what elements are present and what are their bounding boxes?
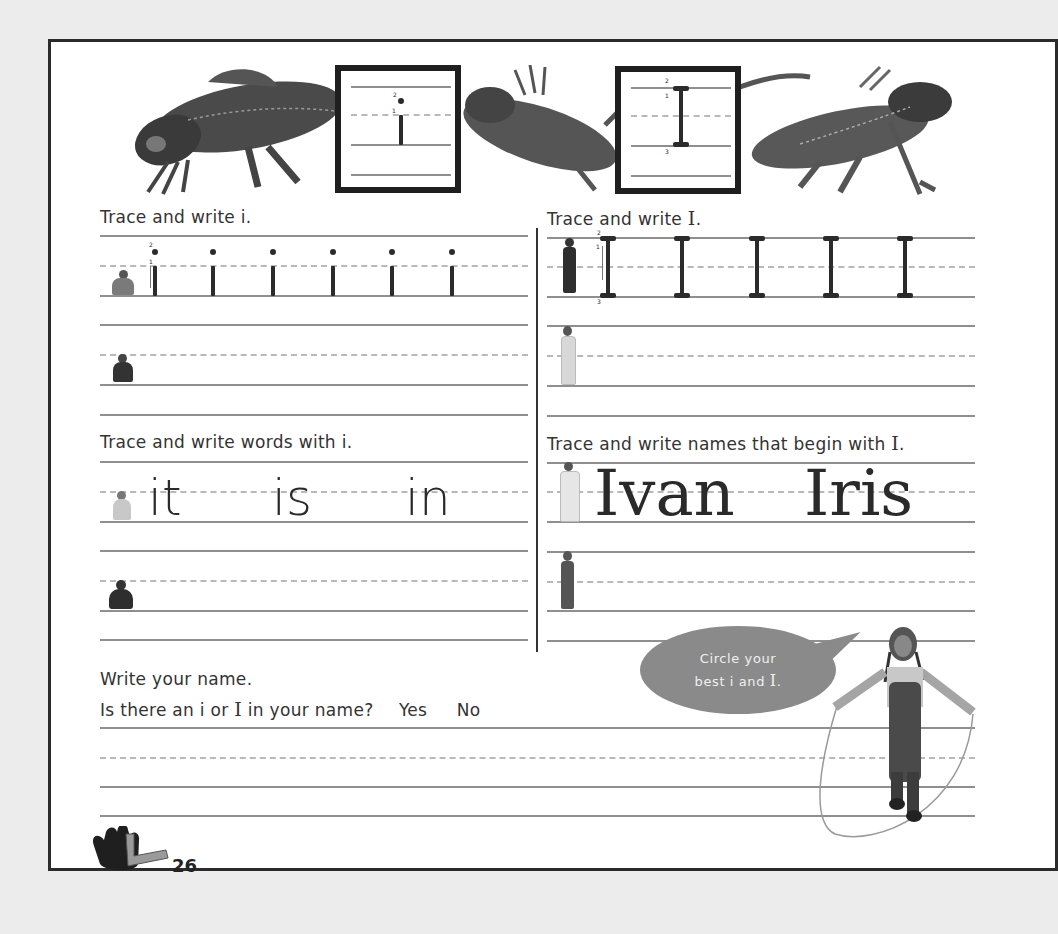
stroke-number: 2 — [393, 91, 397, 98]
question-letter: I — [234, 698, 242, 720]
instruction-trace-i: Trace and write i. — [100, 207, 252, 227]
lizard-middle-image — [455, 65, 630, 195]
guide-line-bottom — [351, 174, 451, 176]
child-figure-sitting — [112, 354, 134, 384]
model-letter-i[interactable] — [390, 266, 394, 296]
stroke-arrow-icon — [602, 246, 603, 280]
trace-name-text: Ivan — [594, 456, 735, 530]
trace-name-text: Iris — [804, 456, 913, 530]
instruction-words-i: Trace and write words with i. — [100, 432, 352, 452]
guide-line-mid — [100, 354, 528, 356]
option-no[interactable]: No — [457, 700, 481, 720]
guide-line-top — [100, 550, 528, 552]
lizard-left-image — [128, 62, 358, 197]
guide-line-top — [547, 325, 975, 327]
guide-line-bottom — [100, 639, 528, 641]
guide-line-mid — [547, 266, 975, 268]
stroke-number: 1 — [392, 107, 396, 114]
model-letter-i[interactable] — [153, 266, 157, 296]
child-figure-standing — [562, 238, 578, 294]
girl-jump-rope-image — [815, 622, 980, 844]
model-letter-i[interactable] — [330, 249, 336, 255]
column-divider — [536, 228, 538, 652]
i-dot — [398, 98, 404, 104]
model-letter-i[interactable] — [152, 249, 158, 255]
trace-word[interactable]: is — [272, 473, 312, 523]
guide-line-top — [100, 235, 528, 237]
trace-word[interactable]: it — [148, 473, 182, 523]
stroke-number: 1 — [665, 92, 669, 99]
stroke-number: 2 — [149, 241, 153, 248]
model-letter-i[interactable] — [331, 266, 335, 296]
instruction-names-I: Trace and write names that begin with I. — [547, 432, 905, 454]
model-letter-i[interactable] — [450, 266, 454, 296]
trace-name[interactable]: Ivan — [594, 461, 735, 525]
guide-line-base — [547, 610, 975, 612]
page-number: 26 — [172, 855, 197, 876]
bubble-line-2: best i and I. — [695, 670, 782, 693]
stroke-number: 3 — [665, 148, 669, 155]
guide-line-top — [100, 324, 528, 326]
stroke-number: 2 — [665, 77, 669, 84]
guide-line-top — [547, 551, 975, 553]
guide-line-bottom — [100, 414, 528, 416]
letter-box-lowercase-i: 2 1 — [335, 65, 461, 193]
i-stroke — [399, 115, 403, 145]
guide-line-base — [100, 610, 528, 612]
guide-line-mid — [100, 265, 528, 267]
guide-line-base — [547, 385, 975, 387]
child-figure-sitting — [108, 580, 134, 610]
child-figure-standing — [560, 551, 576, 610]
stroke-number: 1 — [596, 243, 600, 250]
question-i-in-name: Is there an i or I in your name? Yes No — [100, 698, 480, 720]
guide-line-top — [100, 461, 528, 463]
stroke-number: 3 — [597, 298, 601, 305]
guide-line-top — [351, 86, 451, 88]
guide-line-mid — [547, 355, 975, 357]
trace-word[interactable]: in — [405, 473, 451, 523]
stroke-arrow-icon — [150, 266, 151, 288]
instruction-write-name: Write your name. — [100, 669, 252, 689]
child-figure-standing — [560, 326, 576, 384]
instruction-text: Trace and write names that begin with — [547, 434, 891, 454]
guide-line-base — [100, 384, 528, 386]
option-yes[interactable]: Yes — [399, 700, 427, 720]
guide-line-bottom — [547, 415, 975, 417]
guide-line-bottom — [631, 175, 731, 177]
hand-L-logo-icon — [86, 826, 172, 870]
model-letter-i[interactable] — [271, 266, 275, 296]
guide-line-mid — [547, 581, 975, 583]
child-figure-sitting — [112, 491, 132, 521]
child-figure-sitting — [112, 270, 136, 296]
guide-line-base — [100, 295, 528, 297]
model-letter-i[interactable] — [270, 249, 276, 255]
model-letter-i[interactable] — [210, 249, 216, 255]
model-letter-i[interactable] — [389, 249, 395, 255]
instruction-text: Trace and write — [547, 209, 688, 229]
question-text: in your name? — [242, 700, 373, 720]
stroke-number: 1 — [149, 258, 153, 265]
question-text: Is there an i or — [100, 700, 234, 720]
model-letter-i[interactable] — [211, 266, 215, 296]
speech-bubble: Circle your best i and I. — [640, 626, 836, 714]
letter-box-uppercase-I: 2 1 3 — [615, 66, 741, 194]
instruction-punct: . — [899, 434, 905, 454]
I-bottom-bar — [673, 142, 689, 147]
child-figure-standing — [558, 462, 580, 521]
model-letter-i[interactable] — [449, 249, 455, 255]
stroke-number: 2 — [597, 229, 601, 236]
lizard-right-image — [740, 62, 955, 197]
instruction-letter: I — [688, 207, 696, 229]
guide-line-mid — [100, 580, 528, 582]
instruction-punct: . — [696, 209, 702, 229]
instruction-letter: I — [891, 432, 899, 454]
trace-name[interactable]: Iris — [804, 461, 913, 525]
instruction-trace-I: Trace and write I. — [547, 207, 701, 229]
bubble-line-1: Circle your — [700, 648, 776, 670]
I-stroke — [679, 88, 683, 146]
